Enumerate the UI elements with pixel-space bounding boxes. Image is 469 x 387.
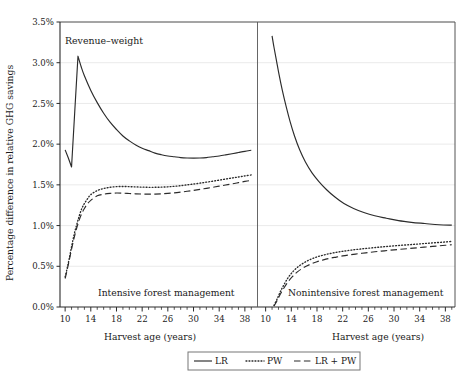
chart-corner-label: Revenue–weight <box>65 35 143 46</box>
chart-background <box>0 0 469 387</box>
y-tick-label: 2.0% <box>32 139 54 149</box>
x-tick-label: 34 <box>414 314 425 324</box>
panel-label-intensive: Intensive forest management <box>98 287 235 298</box>
x-tick-label: 10 <box>260 314 271 324</box>
y-tick-label: 1.0% <box>32 221 54 231</box>
y-tick-label: 3.0% <box>32 58 54 68</box>
x-tick-label: 26 <box>363 314 374 324</box>
x-tick-label: 14 <box>85 314 96 324</box>
y-tick-label: 2.5% <box>32 99 54 109</box>
y-tick-label: 1.5% <box>32 180 54 190</box>
y-axis-title: Percentage difference in relative GHG sa… <box>4 65 15 281</box>
x-tick-label: 38 <box>239 314 250 324</box>
y-tick-label: 3.5% <box>32 17 54 27</box>
y-tick-label: 0.0% <box>32 302 54 312</box>
y-tick-label: 0.5% <box>32 261 54 271</box>
x-tick-label: 30 <box>188 314 199 324</box>
legend-label-lr-plus-pw[interactable]: LR + PW <box>315 356 357 366</box>
legend-label-lr[interactable]: LR <box>215 356 228 366</box>
panel-label-nonintensive: Nonintensive forest management <box>288 287 444 298</box>
chart-legend[interactable]: LRPWLR + PW <box>188 352 360 370</box>
x-tick-label: 30 <box>389 314 400 324</box>
x-tick-label: 14 <box>286 314 297 324</box>
chart-figure: 0.0%0.5%1.0%1.5%2.0%2.5%3.0%3.5% 1014182… <box>0 0 469 387</box>
x-axis-title-right: Harvest age (years) <box>332 331 424 342</box>
x-tick-label: 18 <box>111 314 122 324</box>
x-tick-label: 22 <box>337 314 348 324</box>
x-tick-label: 10 <box>60 314 71 324</box>
x-tick-label: 38 <box>440 314 451 324</box>
revenue-weight-line-chart: 0.0%0.5%1.0%1.5%2.0%2.5%3.0%3.5% 1014182… <box>0 0 469 387</box>
x-tick-label: 22 <box>137 314 148 324</box>
legend-label-pw[interactable]: PW <box>267 356 283 366</box>
x-tick-label: 18 <box>312 314 323 324</box>
x-tick-label: 34 <box>214 314 225 324</box>
x-axis-title-left: Harvest age (years) <box>104 331 196 342</box>
x-tick-label: 26 <box>162 314 173 324</box>
